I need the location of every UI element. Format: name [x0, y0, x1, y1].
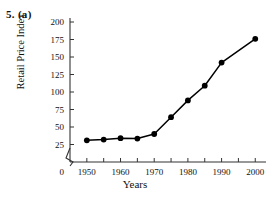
- y-tick-label: 200: [51, 17, 65, 27]
- y-tick-group: [70, 22, 74, 145]
- y-tick-label: 0: [60, 167, 65, 177]
- axes-group: [66, 18, 266, 166]
- data-point-group: [84, 36, 258, 143]
- figure-container: 5. (a) Retail Price Index Years 02550751…: [0, 0, 270, 198]
- y-tick-label: 50: [55, 122, 65, 132]
- data-point: [101, 137, 107, 143]
- y-axis-title: Retail Price Index: [15, 0, 26, 107]
- data-point: [252, 36, 258, 42]
- y-tick-label: 100: [51, 87, 65, 97]
- data-point: [219, 60, 225, 66]
- data-point: [134, 136, 140, 142]
- data-point: [202, 83, 208, 89]
- data-series-line: [87, 39, 255, 141]
- x-tick-label: 1970: [145, 167, 164, 177]
- y-tick-label: 25: [55, 140, 65, 150]
- data-point: [168, 114, 174, 120]
- x-tick-label-group: 195019601970198019902000: [78, 167, 265, 177]
- x-tick-label: 1950: [78, 167, 97, 177]
- y-tick-label: 75: [55, 105, 65, 115]
- y-tick-label-group: 0255075100125150175200: [51, 17, 65, 177]
- x-axis-title: Years: [0, 178, 270, 190]
- y-tick-label: 150: [51, 52, 65, 62]
- data-point: [118, 135, 124, 141]
- y-tick-label: 175: [51, 35, 65, 45]
- data-point: [185, 98, 191, 104]
- data-point: [84, 137, 90, 143]
- x-tick-label: 2000: [246, 167, 265, 177]
- data-point: [151, 131, 157, 137]
- x-tick-label: 1990: [213, 167, 232, 177]
- x-tick-group: [87, 158, 255, 162]
- x-tick-label: 1960: [112, 167, 131, 177]
- y-tick-label: 125: [51, 70, 65, 80]
- x-tick-label: 1980: [179, 167, 198, 177]
- line-chart-plot: 0255075100125150175200 19501960197019801…: [0, 0, 270, 198]
